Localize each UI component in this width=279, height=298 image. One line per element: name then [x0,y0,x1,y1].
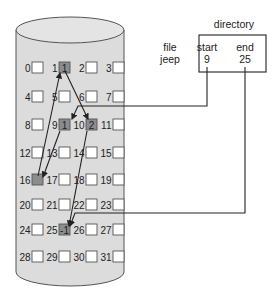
block-0: 0 [25,62,43,74]
free-block-cell [86,251,97,262]
block-number: 12 [19,148,31,159]
free-block-cell [86,91,97,102]
block-number: 3 [106,63,112,74]
block-number: 4 [25,92,31,103]
block-7: 7 [106,91,124,103]
block-number: 18 [73,175,85,186]
block-pointer-value: 2 [89,120,95,131]
block-number: 29 [46,252,58,263]
free-block-cell [113,199,124,210]
block-number: 16 [19,175,31,186]
free-block-cell [113,119,124,130]
free-block-cell [113,251,124,262]
block-number: 17 [46,175,58,186]
directory-title: directory [214,18,255,30]
free-block-cell [86,199,97,210]
block-number: 27 [100,225,112,236]
block-number: 31 [100,252,112,263]
cell-file: jeep [159,53,180,65]
free-block-cell [113,91,124,102]
block-number: 2 [79,63,85,74]
block-number: 9 [52,120,58,131]
free-block-cell [113,224,124,235]
block-number: 19 [100,175,112,186]
block-number: 22 [73,200,85,211]
free-block-cell [59,199,70,210]
block-1: 11 [52,62,70,74]
block-number: 8 [25,120,31,131]
cell-start: 9 [204,53,210,65]
free-block-cell [86,147,97,158]
block-pointer-value: -1 [60,225,69,236]
directory-table: directory file start end jeep 9 25 [159,18,266,72]
free-block-cell [86,174,97,185]
block-8: 8 [25,119,43,131]
block-number: 24 [19,225,31,236]
block-number: 20 [19,200,31,211]
block-number: 1 [52,63,58,74]
block-number: 0 [25,63,31,74]
block-9: 91 [52,119,70,131]
block-pointer-value: 1 [62,63,68,74]
free-block-cell [59,251,70,262]
block-6: 6 [79,91,97,103]
cell-end: 25 [239,53,251,65]
free-block-cell [32,251,43,262]
free-block-cell [59,174,70,185]
header-end: end [236,41,254,53]
block-number: 15 [100,148,112,159]
free-block-cell [32,224,43,235]
block-2: 2 [79,62,97,74]
free-block-cell [113,174,124,185]
free-block-cell [32,147,43,158]
free-block-cell [32,62,43,73]
free-block-cell [113,147,124,158]
free-block-cell [113,62,124,73]
free-block-cell [32,119,43,130]
block-number: 30 [73,252,85,263]
linked-allocation-diagram: 0112345678911021112131415161718192021222… [0,0,279,298]
block-pointer-value: 1 [62,120,68,131]
free-block-cell [32,91,43,102]
block-11: 11 [101,119,124,131]
free-block-cell [32,199,43,210]
header-start: start [197,41,218,53]
used-block-cell [32,174,43,185]
free-block-cell [59,91,70,102]
block-number: 26 [73,225,85,236]
free-block-cell [86,62,97,73]
block-number: 11 [101,120,112,131]
block-number: 7 [106,92,112,103]
block-4: 4 [25,91,43,103]
block-number: 10 [73,120,85,131]
free-block-cell [86,224,97,235]
block-number: 23 [100,200,112,211]
block-number: 21 [46,200,58,211]
block-3: 3 [106,62,124,74]
block-number: 28 [19,252,31,263]
header-file: file [163,41,177,53]
free-block-cell [59,147,70,158]
block-number: 25 [46,225,58,236]
